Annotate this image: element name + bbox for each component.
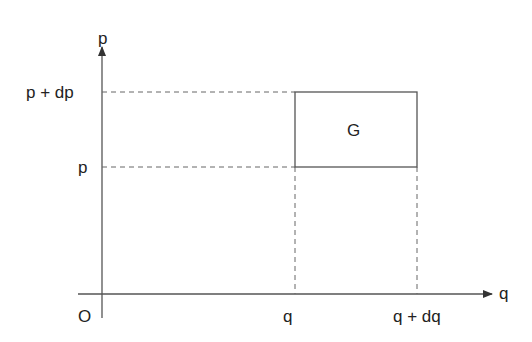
y-axis-label: p [98,29,107,48]
phase-space-diagram: p q O p + dp p q q + dq G [0,0,532,342]
x-axis-label: q [499,284,508,303]
y-tick-p-plus-dp: p + dp [26,83,74,102]
x-tick-q: q [283,307,292,326]
origin-label: O [78,307,91,326]
region-label: G [347,121,360,140]
x-tick-q-plus-dq: q + dq [393,307,441,326]
y-tick-p: p [78,158,87,177]
